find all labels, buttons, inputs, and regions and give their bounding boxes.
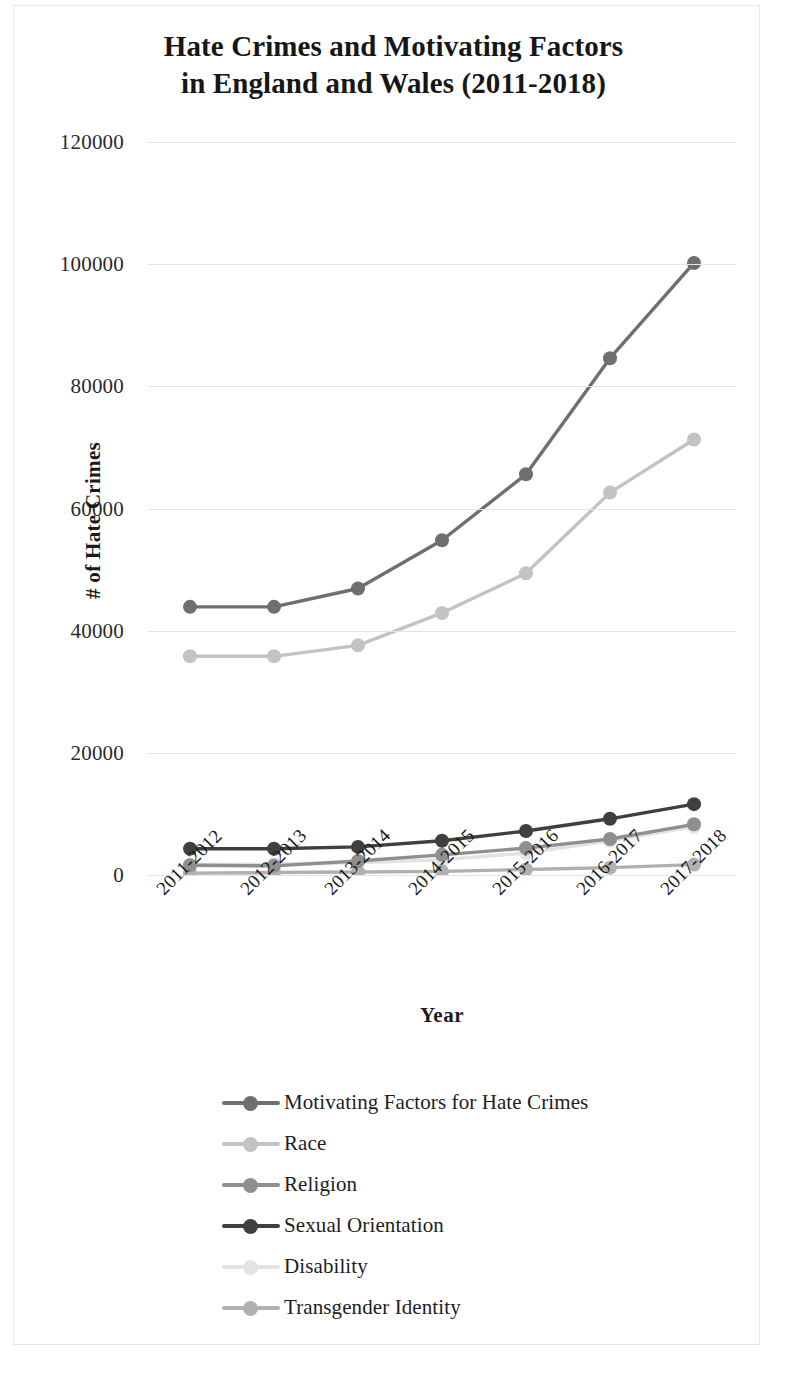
- legend-marker-icon: [222, 1094, 280, 1112]
- legend-marker-icon: [222, 1176, 280, 1194]
- series-line: [190, 263, 694, 607]
- legend-item-label: Sexual Orientation: [284, 1213, 444, 1238]
- series-data-point: [183, 600, 197, 614]
- legend-item-label: Disability: [284, 1254, 368, 1279]
- series-line: [190, 439, 694, 656]
- legend-item[interactable]: Disability: [222, 1246, 652, 1287]
- legend-marker-icon: [222, 1258, 280, 1276]
- legend-item-label: Motivating Factors for Hate Crimes: [284, 1090, 588, 1115]
- series-data-point: [687, 256, 701, 270]
- series-data-point: [351, 638, 365, 652]
- y-axis-tick-label: 80000: [71, 374, 125, 399]
- gridline: [148, 264, 736, 265]
- x-axis-tick-labels: 2011-20122012-20132013-20142014-20152015…: [148, 884, 736, 994]
- series-data-point: [687, 432, 701, 446]
- y-axis-title: # of Hate Crimes: [81, 416, 106, 626]
- page-title-line-1: Hate Crimes and Motivating Factors: [0, 28, 787, 65]
- legend-item[interactable]: Transgender Identity: [222, 1287, 652, 1328]
- series-data-point: [267, 649, 281, 663]
- gridline: [148, 509, 736, 510]
- y-axis-tick-label: 100000: [60, 252, 124, 277]
- legend-marker-icon: [222, 1217, 280, 1235]
- y-axis-tick-label: 120000: [60, 130, 124, 155]
- series-data-point: [435, 606, 449, 620]
- legend-item[interactable]: Motivating Factors for Hate Crimes: [222, 1082, 652, 1123]
- legend-item-label: Race: [284, 1131, 326, 1156]
- y-axis-tick-label: 20000: [71, 740, 125, 765]
- y-axis-tick-label: 0: [113, 863, 124, 888]
- series-data-point: [603, 351, 617, 365]
- series-data-point: [603, 812, 617, 826]
- page-title-line-2: in England and Wales (2011-2018): [0, 65, 787, 102]
- series-data-point: [519, 566, 533, 580]
- x-axis-title: Year: [148, 1003, 736, 1028]
- legend-marker-icon: [222, 1135, 280, 1153]
- plot-area: [148, 142, 736, 875]
- series-data-point: [603, 486, 617, 500]
- gridline: [148, 386, 736, 387]
- legend-marker-icon: [222, 1299, 280, 1317]
- series-data-point: [435, 533, 449, 547]
- legend-item[interactable]: Sexual Orientation: [222, 1205, 652, 1246]
- gridline: [148, 753, 736, 754]
- gridline: [148, 142, 736, 143]
- series-data-point: [687, 797, 701, 811]
- legend-item-label: Religion: [284, 1172, 357, 1197]
- series-data-point: [351, 582, 365, 596]
- series-data-point: [183, 649, 197, 663]
- series-data-point: [267, 600, 281, 614]
- series-data-point: [519, 467, 533, 481]
- series-data-point: [687, 817, 701, 831]
- series-data-point: [519, 824, 533, 838]
- legend-item[interactable]: Race: [222, 1123, 652, 1164]
- y-axis-tick-labels: 020000400006000080000100000120000: [0, 142, 136, 875]
- legend-item-label: Transgender Identity: [284, 1295, 461, 1320]
- page-title: Hate Crimes and Motivating Factors in En…: [0, 28, 787, 102]
- chart-legend: Motivating Factors for Hate CrimesRaceRe…: [222, 1082, 652, 1328]
- gridline: [148, 631, 736, 632]
- legend-item[interactable]: Religion: [222, 1164, 652, 1205]
